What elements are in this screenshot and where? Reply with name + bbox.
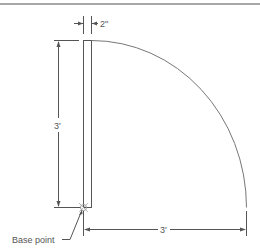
arrowhead-icon [78, 22, 83, 26]
arrowhead-icon [57, 201, 61, 207]
door-height-label: 3' [54, 121, 61, 131]
arrowhead-icon [57, 41, 61, 47]
arrowhead-icon [92, 22, 97, 26]
arrowhead-icon [84, 228, 90, 232]
base-point-marker-icon [79, 203, 88, 212]
arrowhead-icon [240, 228, 246, 232]
door-drawing: 2" 3' 3' Base point [0, 0, 260, 252]
base-point-label: Base point [12, 235, 55, 245]
door-leaf [84, 41, 92, 208]
leader-line [62, 210, 82, 240]
swing-radius-label: 3' [160, 225, 167, 235]
door-thickness-label: 2" [100, 19, 108, 29]
door-swing-arc [92, 41, 247, 208]
